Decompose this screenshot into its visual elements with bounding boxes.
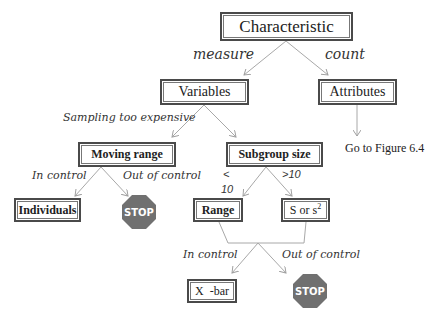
edge-label-in-control: In control xyxy=(183,248,238,261)
node-individuals-label: Individuals xyxy=(18,203,76,218)
node-subgroup-size-label: Subgroup size xyxy=(238,147,310,162)
node-s-or-s2-label: S or s2 xyxy=(290,202,321,218)
edge-label-out-of-control: Out of control xyxy=(282,248,360,261)
edge-label-gt-10: >10 xyxy=(282,168,301,180)
node-moving-range-label: Moving range xyxy=(91,147,163,162)
node-range: Range xyxy=(193,198,243,222)
superscript-2: 2 xyxy=(317,202,321,211)
edge-label-lt-10: 10 xyxy=(221,183,233,195)
go-to-figure-note: Go to Figure 6.4 xyxy=(345,141,424,156)
node-variables-label: Variables xyxy=(178,84,230,100)
stop-sign-label: STOP xyxy=(292,273,328,309)
node-subgroup-size: Subgroup size xyxy=(226,142,323,167)
node-variables: Variables xyxy=(160,79,249,105)
edge-label-count: count xyxy=(325,46,365,62)
edge-label-mr-in-control: In control xyxy=(32,169,87,182)
stop-sign-label: STOP xyxy=(121,194,157,230)
node-moving-range: Moving range xyxy=(78,142,176,167)
node-characteristic: Characteristic xyxy=(220,12,353,41)
node-xbar-label: X -bar xyxy=(195,284,229,299)
edge-label-measure: measure xyxy=(193,46,254,62)
node-range-label: Range xyxy=(202,203,235,218)
node-xbar: X -bar xyxy=(187,279,237,303)
edge-label-sampling-too-expensive: Sampling too expensive xyxy=(63,111,196,124)
edge-label-mr-out-of-control: Out of control xyxy=(123,169,201,182)
node-s-or-s2-text: S or s xyxy=(290,203,317,217)
node-attributes-label: Attributes xyxy=(330,84,386,100)
node-s-or-s2: S or s2 xyxy=(281,198,330,222)
stop-sign-icon: STOP xyxy=(292,273,328,309)
node-characteristic-label: Characteristic xyxy=(239,17,333,37)
node-individuals: Individuals xyxy=(14,198,81,222)
edge-label-lt: < xyxy=(223,168,229,180)
node-attributes: Attributes xyxy=(318,79,397,105)
stop-sign-icon: STOP xyxy=(121,194,157,230)
